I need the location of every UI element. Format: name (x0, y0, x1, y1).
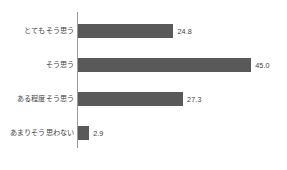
footer-mark: · (142, 159, 144, 165)
bar (78, 92, 183, 106)
bar-value-label: 27.3 (187, 95, 201, 104)
bar-value-label: 24.8 (177, 27, 191, 36)
bar-row: そう思う 45.0 (0, 48, 287, 82)
bar (78, 58, 251, 72)
category-label: ある程度そう思う (0, 95, 74, 103)
bar-row: とてもそう思う 24.8 (0, 14, 287, 48)
bar-container: 27.3 (78, 82, 201, 116)
bar-row: ある程度そう思う 27.3 (0, 82, 287, 116)
bar (78, 24, 173, 38)
bar-container: 45.0 (78, 48, 270, 82)
bar-container: 24.8 (78, 14, 192, 48)
bar (78, 126, 89, 140)
category-label: そう思う (0, 61, 74, 69)
category-label: あまりそう思わない (0, 129, 74, 137)
bar-chart: とてもそう思う 24.8 そう思う 45.0 ある程度そう思う 27.3 あまり… (0, 0, 287, 170)
category-label: とてもそう思う (0, 27, 74, 35)
plot-area: とてもそう思う 24.8 そう思う 45.0 ある程度そう思う 27.3 あまり… (0, 0, 287, 170)
bar-container: 2.9 (78, 116, 103, 150)
bar-value-label: 45.0 (255, 61, 269, 70)
bar-value-label: 2.9 (93, 129, 103, 138)
bar-row: あまりそう思わない 2.9 (0, 116, 287, 150)
